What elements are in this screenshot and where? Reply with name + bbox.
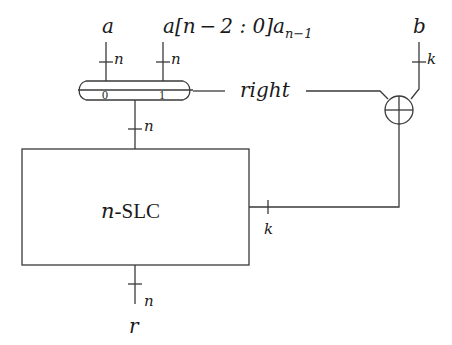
slc-block-label: n-SLC — [101, 199, 160, 223]
output-r-label: r — [129, 314, 140, 338]
slc-diagram: a n a[n − 2 : 0]an−1 n 0 1 right b k k n… — [0, 0, 452, 345]
mux-output-width: n — [144, 117, 154, 135]
mux-port0-label: 0 — [102, 88, 108, 102]
input-b-width: k — [427, 50, 436, 68]
input-arot-width: n — [171, 50, 181, 68]
xor-gate-icon — [385, 96, 413, 124]
input-b-label: b — [413, 14, 426, 38]
side-width-label: k — [264, 220, 273, 238]
select-label: right — [240, 78, 291, 102]
input-a-width: n — [114, 50, 124, 68]
input-arot-label: a[n − 2 : 0]an−1 — [163, 14, 313, 41]
input-b-wire — [411, 42, 419, 99]
select-wire-right — [306, 91, 388, 99]
mux-port1-label: 1 — [159, 88, 165, 102]
xor-to-block-wire — [249, 124, 399, 207]
output-width: n — [144, 292, 154, 310]
input-a-label: a — [102, 14, 114, 38]
